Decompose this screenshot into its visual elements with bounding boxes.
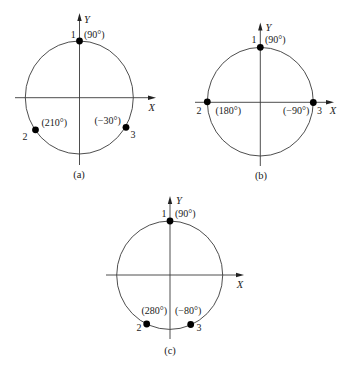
point-1-angle: (90°) — [84, 29, 105, 41]
point-1-number: 1 — [162, 208, 167, 219]
point-2 — [143, 321, 150, 328]
point-2-angle: (280°) — [142, 305, 168, 317]
point-2 — [204, 98, 211, 105]
y-arrow-icon — [168, 196, 172, 204]
x-axis-label: X — [329, 105, 337, 116]
point-2-number: 2 — [197, 105, 202, 116]
x-arrow-icon — [236, 273, 244, 277]
x-arrow-icon — [148, 96, 156, 100]
point-3-number: 3 — [197, 322, 202, 333]
point-2-angle: (180°) — [216, 105, 242, 117]
point-1 — [257, 44, 264, 51]
x-axis-label: X — [147, 102, 155, 113]
point-3-angle: (−80°) — [175, 305, 201, 317]
y-axis-label: Y — [176, 195, 183, 206]
x-axis-label: X — [236, 279, 244, 290]
point-2-number: 2 — [137, 322, 142, 333]
panel-c: Y X 1 (90°) 2 (280°) 3 (−80°) (c) — [106, 195, 244, 357]
figure-canvas: Y X 1 (90°) 2 (210°) 3 (−30°) (a) Y X 1 … — [0, 0, 350, 372]
point-3-number: 3 — [131, 129, 136, 140]
point-1 — [167, 218, 174, 225]
point-3 — [310, 99, 317, 106]
x-arrow-icon — [326, 100, 334, 104]
panel-b: Y X 1 (90°) 2 (180°) 3 (−90°) (b) — [195, 22, 337, 182]
point-1 — [76, 38, 83, 45]
point-1-angle: (90°) — [175, 208, 196, 220]
point-3-angle: (−30°) — [95, 115, 121, 127]
y-arrow-icon — [258, 23, 262, 31]
point-2 — [32, 126, 39, 133]
y-axis-label: Y — [266, 22, 273, 33]
panel-a: Y X 1 (90°) 2 (210°) 3 (−30°) (a) — [15, 13, 156, 181]
point-3 — [187, 321, 194, 328]
point-2-angle: (210°) — [42, 117, 68, 129]
point-3 — [123, 124, 130, 131]
point-1-number: 1 — [252, 34, 257, 45]
panel-caption: (c) — [164, 345, 176, 357]
point-3-angle: (−90°) — [283, 105, 309, 117]
panel-caption: (b) — [255, 170, 268, 182]
point-3-number: 3 — [317, 105, 322, 116]
point-1-number: 1 — [71, 29, 76, 40]
panel-caption: (a) — [73, 169, 85, 181]
y-axis-label: Y — [84, 14, 91, 25]
point-2-number: 2 — [23, 131, 28, 142]
y-arrow-icon — [77, 13, 81, 21]
point-1-angle: (90°) — [265, 34, 286, 46]
